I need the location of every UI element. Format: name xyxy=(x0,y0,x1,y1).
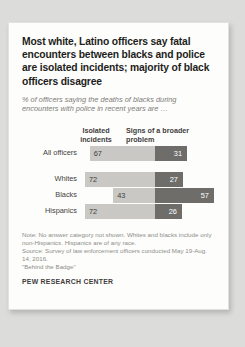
bar-value-broader: 26 xyxy=(169,206,177,217)
bar-value-isolated: 67 xyxy=(94,148,102,159)
row-label: Hispanics xyxy=(23,206,77,216)
column-header-isolated: Isolated incidents xyxy=(68,126,124,145)
column-header-broader: Signs of a broader problem xyxy=(126,126,216,145)
chart-report-name: "Behind the Badge" xyxy=(22,263,215,271)
bar-value-isolated: 72 xyxy=(89,174,97,185)
chart-footer: Note: No answer category not shown. Whit… xyxy=(22,231,215,285)
bar-track: 4357 xyxy=(81,188,215,203)
column-headers: Isolated incidents Signs of a broader pr… xyxy=(23,126,215,146)
bar-segment-isolated: 72 xyxy=(85,204,155,219)
bar-track: 7226 xyxy=(81,204,215,219)
chart-source: Source: Survey of law enforcement office… xyxy=(22,247,215,263)
bar-segment-broader: 27 xyxy=(155,172,183,187)
row-label: All officers xyxy=(23,148,77,158)
chart-subtitle: % of officers saying the deaths of black… xyxy=(22,95,215,114)
row-label: Whites xyxy=(23,174,77,184)
bar-segment-isolated: 43 xyxy=(113,188,155,203)
bar-value-isolated: 43 xyxy=(117,190,125,201)
chart-row: Blacks4357 xyxy=(23,188,215,203)
chart-title: Most white, Latino officers say fatal en… xyxy=(22,35,215,88)
bar-value-broader: 57 xyxy=(201,190,209,201)
pew-research-center-brand: PEW RESEARCH CENTER xyxy=(22,278,215,285)
chart-row: Hispanics7226 xyxy=(23,204,215,219)
infographic-card: Most white, Latino officers say fatal en… xyxy=(8,22,229,310)
row-label: Blacks xyxy=(23,190,77,200)
bar-value-broader: 31 xyxy=(174,148,182,159)
bar-segment-isolated: 72 xyxy=(85,172,155,187)
chart-row: Whites7227 xyxy=(23,172,215,187)
bar-rows: All officers6731Whites7227Blacks4357Hisp… xyxy=(23,146,215,219)
bar-track: 6731 xyxy=(81,146,215,161)
chart-note: Note: No answer category not shown. Whit… xyxy=(22,231,215,247)
bar-value-broader: 27 xyxy=(170,174,178,185)
chart-plot-area: Isolated incidents Signs of a broader pr… xyxy=(23,126,215,219)
bar-segment-isolated: 67 xyxy=(90,146,155,161)
chart-row: All officers6731 xyxy=(23,146,215,161)
bar-segment-broader: 31 xyxy=(155,146,187,161)
bar-value-isolated: 72 xyxy=(89,206,97,217)
bar-segment-broader: 57 xyxy=(155,188,214,203)
bar-track: 7227 xyxy=(81,172,215,187)
bar-segment-broader: 26 xyxy=(155,204,182,219)
